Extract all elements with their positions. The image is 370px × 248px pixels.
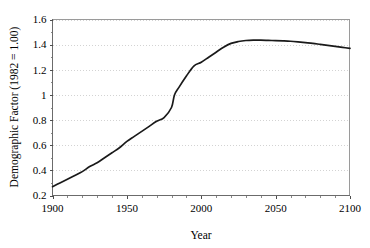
x-axis-tick-label: 1900 [42,202,65,214]
chart-figure: 0.20.40.60.811.21.41.6 19001950200020502… [0,0,370,248]
y-axis-tick-label: 0.6 [33,139,47,151]
x-axis-title: Year [190,229,211,241]
y-axis-tick-label: 1.6 [33,13,47,25]
x-axis-tick-label: 1950 [116,202,139,214]
demographic-factor-line-chart: 0.20.40.60.811.21.41.6 19001950200020502… [0,0,370,248]
x-axis-tick-label: 2000 [190,202,213,214]
y-axis-tick-label: 0.4 [33,164,47,176]
y-axis-tick-label: 1 [41,89,47,101]
y-axis-tick-label: 1.2 [33,64,47,76]
y-axis-tick-label: 0.2 [33,189,47,201]
y-axis-title: Demographic Factor (1982 = 1.00) [8,26,21,187]
x-axis-tick-label: 2100 [339,202,362,214]
y-axis-tick-label: 1.4 [33,38,47,50]
y-axis-tick-label: 0.8 [33,114,47,126]
x-axis-tick-label: 2050 [265,202,288,214]
